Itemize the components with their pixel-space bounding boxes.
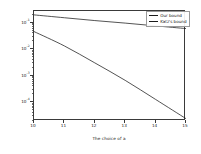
y-tick-minor <box>32 107 34 108</box>
legend-line-swatch <box>149 15 158 16</box>
x-tick-label-4: 14 <box>152 123 157 128</box>
y-tick-minor <box>32 79 34 80</box>
y-tick-minor <box>32 67 34 68</box>
y-tick-minor <box>32 24 34 25</box>
y-tick-minor <box>32 77 34 78</box>
y-tick-label-2: 10-3 <box>21 72 29 77</box>
y-tick-minor <box>32 62 34 63</box>
y-tick-minor <box>32 50 34 51</box>
y-tick-minor <box>32 36 34 37</box>
x-tick-label-0: 10 <box>30 123 35 128</box>
y-tick-minor <box>32 51 34 52</box>
y-tick-minor <box>32 115 34 116</box>
chart-figure: 10-110-210-310-4 101112131415 The tail b… <box>0 0 201 154</box>
y-tick-minor <box>32 85 34 86</box>
y-tick-label-1: 10-2 <box>21 46 29 51</box>
y-tick-minor <box>32 30 34 31</box>
legend-item-1: Katz's bound <box>149 19 186 25</box>
y-tick-minor <box>32 56 34 57</box>
y-tick-minor <box>32 54 34 55</box>
y-tick-minor <box>32 103 34 104</box>
x-tick-label-1: 11 <box>61 123 66 128</box>
x-tick-label-3: 13 <box>122 123 127 128</box>
y-tick-minor <box>32 81 34 82</box>
legend-line-swatch <box>149 21 158 22</box>
legend-label: Katz's bound <box>160 19 186 25</box>
y-tick-minor <box>32 23 34 24</box>
plot-svg <box>34 11 186 121</box>
series-paths <box>34 15 186 119</box>
y-tick-minor <box>32 89 34 90</box>
y-tick-minor <box>32 83 34 84</box>
y-tick-minor <box>32 76 34 77</box>
y-tick-minor <box>32 104 34 105</box>
y-tick-minor <box>32 53 34 54</box>
x-tick-label-5: 15 <box>182 123 187 128</box>
y-tick-minor <box>32 93 34 94</box>
y-tick-label-0: 10-1 <box>21 19 29 24</box>
chart-legend: Our boundKatz's bound <box>146 11 190 28</box>
y-tick-minor <box>32 28 34 29</box>
y-tick-minor <box>32 106 34 107</box>
y-tick-minor <box>32 14 34 15</box>
x-tick-label-2: 12 <box>91 123 96 128</box>
y-tick-minor <box>32 26 34 27</box>
y-tick-minor <box>32 32 34 33</box>
y-tick-minor <box>32 59 34 60</box>
y-tick-minor <box>32 112 34 113</box>
x-axis-title: The choice of a <box>33 136 185 141</box>
y-tick-minor <box>32 109 34 110</box>
series-line-0 <box>34 32 186 119</box>
y-tick-label-3: 10-4 <box>21 99 29 104</box>
y-tick-minor <box>32 40 34 41</box>
